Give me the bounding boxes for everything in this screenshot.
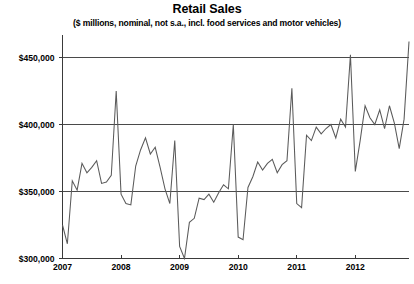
x-tick-label: 2012: [346, 262, 365, 272]
plot-area: $300,000$350,000$400,000$450,000 2007200…: [0, 0, 414, 284]
y-axis-tick-labels: $300,000$350,000$400,000$450,000: [19, 53, 55, 264]
x-tick-label: 2009: [170, 262, 189, 272]
y-tick-label: $400,000: [19, 120, 55, 130]
y-tick-label: $350,000: [19, 187, 55, 197]
x-tick-label: 2008: [112, 262, 131, 272]
x-axis-tick-labels: 200720082009201020112012: [53, 262, 365, 272]
x-tick-label: 2011: [287, 262, 306, 272]
data-series-line-retail-sales: [63, 41, 410, 258]
retail-sales-chart: Retail Sales ($ millions, nominal, not s…: [0, 0, 414, 284]
x-tick-label: 2010: [229, 262, 248, 272]
gridlines: [59, 58, 410, 259]
y-tick-label: $300,000: [19, 254, 55, 264]
y-tick-label: $450,000: [19, 53, 55, 63]
x-axis-tickmarks: [63, 255, 356, 259]
x-tick-label: 2007: [53, 262, 72, 272]
